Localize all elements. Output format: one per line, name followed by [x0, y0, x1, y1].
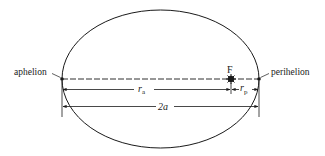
aphelion-label: aphelion — [14, 67, 47, 77]
perihelion-point — [257, 77, 261, 81]
perihelion-leader-line — [261, 74, 270, 78]
focus-label: F — [227, 64, 233, 75]
aphelion-leader-line — [52, 74, 61, 78]
perihelion-label: perihelion — [271, 67, 310, 77]
major-axis-label: 2a — [158, 101, 168, 112]
orbit-diagram: F ra rp 2a aphelion perihelion — [0, 0, 325, 156]
r-a-label: ra — [138, 83, 146, 96]
focus-sun-icon — [226, 74, 236, 84]
r-p-label: rp — [240, 82, 248, 96]
aphelion-point — [60, 77, 64, 81]
